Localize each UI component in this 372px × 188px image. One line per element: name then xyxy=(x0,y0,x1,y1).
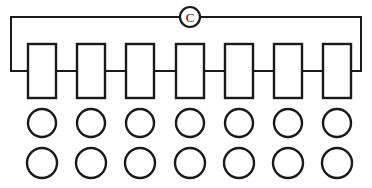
lower-node-2[interactable] xyxy=(76,148,106,178)
upper-node-4[interactable] xyxy=(176,109,204,137)
meter-label: C xyxy=(186,10,195,25)
module-rect-6[interactable] xyxy=(274,44,302,98)
upper-node-2[interactable] xyxy=(77,109,105,137)
lower-node-6[interactable] xyxy=(273,148,303,178)
upper-node-3[interactable] xyxy=(126,109,154,137)
module-rect-3[interactable] xyxy=(126,44,154,98)
upper-node-1[interactable] xyxy=(28,109,56,137)
circuit-schematic: C xyxy=(0,0,372,188)
upper-node-row xyxy=(28,109,351,137)
diagram-root: C xyxy=(0,0,372,188)
upper-node-5[interactable] xyxy=(225,109,253,137)
module-row xyxy=(28,44,351,98)
module-rect-4[interactable] xyxy=(176,44,204,98)
upper-node-6[interactable] xyxy=(274,109,302,137)
lower-node-1[interactable] xyxy=(27,148,57,178)
lower-node-3[interactable] xyxy=(125,148,155,178)
module-rect-1[interactable] xyxy=(28,44,56,98)
module-rect-7[interactable] xyxy=(323,44,351,98)
upper-node-7[interactable] xyxy=(323,109,351,137)
lower-node-4[interactable] xyxy=(175,148,205,178)
module-rect-2[interactable] xyxy=(77,44,105,98)
lower-node-7[interactable] xyxy=(322,148,352,178)
lower-node-5[interactable] xyxy=(224,148,254,178)
module-rect-5[interactable] xyxy=(225,44,253,98)
meter-c-icon[interactable]: C xyxy=(180,7,200,27)
lower-node-row xyxy=(27,148,352,178)
